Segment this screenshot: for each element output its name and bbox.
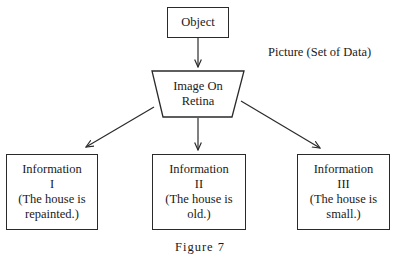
info1-node: Information I (The house is repainted.) (6, 154, 98, 230)
info1-title: Information (22, 162, 82, 177)
object-node: Object (167, 7, 229, 38)
retina-node: Image On Retina (152, 71, 244, 117)
arrow-retina-to-info1 (86, 107, 154, 147)
info2-desc-line2: old.) (187, 207, 210, 222)
info3-desc-line2: small.) (326, 207, 360, 222)
info2-numeral: II (195, 177, 203, 192)
info3-node: Information III (The house is small.) (297, 154, 390, 230)
info1-numeral: I (50, 177, 54, 192)
object-label: Object (181, 15, 214, 30)
info3-numeral: III (337, 177, 350, 192)
info2-node: Information II (The house is old.) (152, 154, 246, 230)
arrow-retina-to-info3 (241, 101, 320, 148)
info2-desc-line1: (The house is (165, 192, 232, 207)
info1-desc-line1: (The house is (18, 192, 85, 207)
info3-desc-line1: (The house is (310, 192, 377, 207)
info2-title: Information (169, 162, 229, 177)
figure-caption: Figure 7 (150, 240, 250, 255)
retina-label-line1: Image On (173, 79, 223, 94)
picture-annotation: Picture (Set of Data) (268, 45, 371, 60)
info1-desc-line2: repainted.) (25, 207, 79, 222)
info3-title: Information (314, 162, 374, 177)
retina-label-line2: Retina (182, 94, 215, 109)
